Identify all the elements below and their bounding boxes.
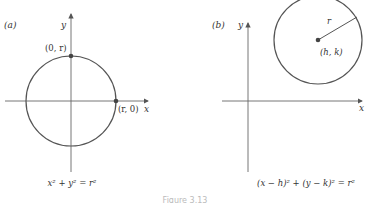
point-label-right: (r, 0) <box>118 104 139 114</box>
panel-a: (a) y (0, r) (r, 0) x x² + y² = r² <box>4 14 149 188</box>
panel-label-a: (a) <box>4 20 17 30</box>
point-label-center: (h, k) <box>320 47 343 57</box>
figure-caption: Figure 3.13 <box>0 196 370 203</box>
y-axis-label: y <box>60 20 67 30</box>
y-axis-label: y <box>237 20 244 30</box>
x-axis-label: x <box>144 104 149 114</box>
point-label-top: (0, r) <box>45 43 67 53</box>
panel-b: (b) y r (h, k) x (x − h)² + (y − k)² = r… <box>212 0 364 188</box>
x-axis-label: x <box>359 103 364 113</box>
figure-canvas: (a) y (0, r) (r, 0) x x² + y² = r² (b) y… <box>0 0 370 203</box>
point-top <box>69 54 74 59</box>
point-right <box>114 99 119 104</box>
point-center <box>316 38 321 43</box>
radius-line <box>318 17 357 40</box>
equation-b: (x − h)² + (y − k)² = r² <box>257 178 355 188</box>
equation-a: x² + y² = r² <box>48 178 98 188</box>
panel-label-b: (b) <box>212 20 225 30</box>
radius-label: r <box>327 16 332 26</box>
